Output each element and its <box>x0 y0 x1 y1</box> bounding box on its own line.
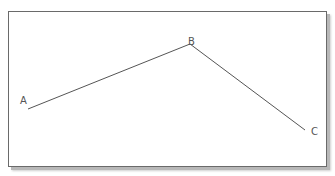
point-label-a: A <box>20 95 27 106</box>
point-label-b: B <box>188 36 195 47</box>
point-label-c: C <box>311 126 318 137</box>
segment-b-c <box>190 44 305 130</box>
segment-a-b <box>28 44 190 109</box>
polyline-diagram: A B C <box>0 0 335 176</box>
